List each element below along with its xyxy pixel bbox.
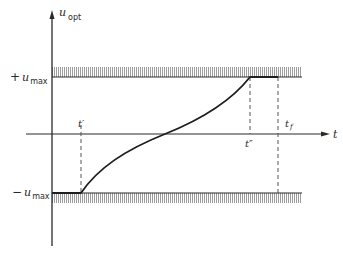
upper-bound-band	[52, 67, 302, 77]
optimal-control-curve	[52, 77, 278, 193]
y-axis	[50, 10, 55, 246]
upper-bound-label: +umax	[10, 70, 48, 86]
y-axis-arrow-icon	[50, 10, 55, 19]
x-axis-arrow-icon	[321, 132, 330, 137]
t-prime-label: t′	[78, 118, 85, 129]
lower-bound-band	[52, 193, 302, 203]
lower-bound-label: −umax	[12, 185, 50, 201]
x-axis-label: t	[333, 128, 338, 141]
y-axis-label: uopt	[59, 6, 81, 22]
x-axis	[26, 132, 330, 137]
t-double-prime-label: t″	[245, 138, 253, 149]
bang-bang-control-diagram: uopt t +umax −umax t′ t″ tf	[0, 0, 343, 257]
t-final-label: tf	[285, 118, 294, 131]
